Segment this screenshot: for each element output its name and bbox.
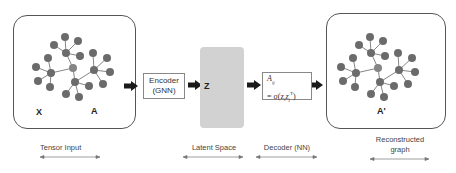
reconstructed-graph	[337, 33, 419, 101]
decoder-output: Aij	[267, 73, 311, 88]
input-graph	[32, 33, 114, 101]
feature-matrix-label: X	[36, 107, 42, 117]
reconstructed-adjacency-label: A'	[377, 106, 386, 116]
caption-latent-space: Latent Space	[186, 143, 242, 152]
caption-tensor-input: Tensor Input	[40, 143, 96, 152]
adjacency-matrix-label: A	[91, 106, 98, 116]
caption-reconstructed-line1: Reconstructed	[370, 135, 430, 145]
caption-reconstructed-line2: graph	[370, 145, 430, 155]
encoder-box: Encoder (GNN)	[143, 73, 185, 99]
decoder-formula: = σ(zizjT)	[267, 88, 311, 105]
latent-z-label-overlay: Z	[204, 81, 210, 91]
caption-decoder: Decoder (NN)	[258, 143, 316, 152]
decoder-box: Aij = σ(zizjT)	[262, 72, 312, 100]
encoder-label: Encoder	[144, 76, 184, 86]
encoder-type: (GNN)	[144, 86, 184, 96]
caption-reconstructed: Reconstructed graph	[370, 135, 430, 155]
